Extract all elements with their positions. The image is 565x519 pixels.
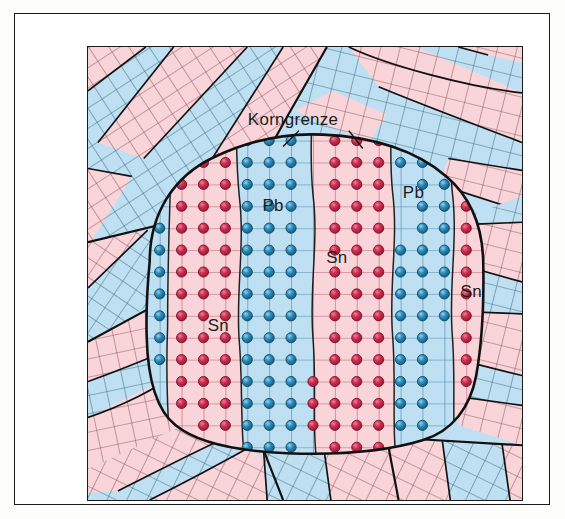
atom-sn — [374, 289, 384, 299]
label-sn-left: Sn — [208, 316, 229, 335]
label-sn-center: Sn — [326, 248, 347, 267]
microstructure-illustration: Korngrenze Pb Pb Sn Sn Sn — [88, 47, 522, 500]
figure-root: Korngrenze Pb Pb Sn Sn Sn — [0, 0, 565, 519]
atom-pb — [439, 223, 449, 233]
atom-sn — [198, 376, 208, 386]
atom-pb — [286, 355, 296, 365]
atom-sn — [352, 311, 362, 321]
atom-pb — [417, 355, 427, 365]
atom-sn — [176, 376, 186, 386]
atom-pb — [155, 289, 165, 299]
atom-pb — [417, 267, 427, 277]
atom-pb — [264, 289, 274, 299]
atom-sn — [461, 267, 471, 277]
atom-sn — [220, 179, 230, 189]
atom-pb — [417, 289, 427, 299]
atom-pb — [242, 289, 252, 299]
atom-pb — [264, 267, 274, 277]
atom-pb — [264, 157, 274, 167]
grain-bottom-right — [387, 437, 522, 500]
atom-pb — [242, 333, 252, 343]
atom-sn — [330, 333, 340, 343]
atom-pb — [286, 245, 296, 255]
atom-sn — [176, 223, 186, 233]
atom-pb — [439, 289, 449, 299]
atom-pb — [242, 157, 252, 167]
atom-pb — [286, 223, 296, 233]
atom-sn — [374, 333, 384, 343]
page-border: Korngrenze Pb Pb Sn Sn Sn — [14, 13, 550, 505]
atom-sn — [374, 245, 384, 255]
atom-sn — [352, 289, 362, 299]
atom-sn — [176, 245, 186, 255]
label-pb-left: Pb — [263, 196, 284, 215]
atom-pb — [242, 398, 252, 408]
atom-pb — [395, 420, 405, 430]
atom-pb — [242, 179, 252, 189]
atom-pb — [155, 311, 165, 321]
atom-pb — [395, 355, 405, 365]
atom-sn — [330, 136, 340, 146]
atom-pb — [417, 333, 427, 343]
atom-pb — [395, 289, 405, 299]
atom-sn — [176, 201, 186, 211]
atom-pb — [395, 398, 405, 408]
atom-pb — [439, 201, 449, 211]
atom-pb — [242, 376, 252, 386]
atom-pb — [395, 376, 405, 386]
atom-pb — [242, 267, 252, 277]
atom-pb — [286, 179, 296, 189]
atom-sn — [330, 267, 340, 277]
atom-pb — [264, 376, 274, 386]
atom-pb — [242, 201, 252, 211]
atom-sn — [176, 267, 186, 277]
atom-sn — [461, 311, 471, 321]
atom-pb — [439, 245, 449, 255]
atom-pb — [395, 311, 405, 321]
atom-pb — [155, 267, 165, 277]
atom-pb — [395, 157, 405, 167]
atom-sn — [220, 289, 230, 299]
atom-sn — [374, 157, 384, 167]
atom-sn — [198, 267, 208, 277]
atom-sn — [198, 289, 208, 299]
atom-pb — [286, 376, 296, 386]
atom-pb — [242, 245, 252, 255]
atom-sn — [330, 376, 340, 386]
atom-pb — [286, 201, 296, 211]
atom-sn — [374, 179, 384, 189]
atom-sn — [461, 223, 471, 233]
atom-sn — [330, 420, 340, 430]
atom-pb — [417, 245, 427, 255]
atom-sn — [198, 179, 208, 189]
atom-sn — [176, 333, 186, 343]
atom-sn — [374, 355, 384, 365]
atom-sn — [308, 398, 318, 408]
atom-pb — [286, 442, 296, 452]
atom-sn — [374, 420, 384, 430]
atom-pb — [439, 267, 449, 277]
atom-pb — [286, 136, 296, 146]
atom-sn — [352, 267, 362, 277]
atom-sn — [308, 420, 318, 430]
atom-pb — [264, 223, 274, 233]
atom-pb — [264, 420, 274, 430]
atom-sn — [176, 398, 186, 408]
label-korngrenze: Korngrenze — [248, 110, 338, 129]
atom-pb — [286, 289, 296, 299]
atom-pb — [242, 311, 252, 321]
atom-sn — [176, 289, 186, 299]
atom-sn — [198, 355, 208, 365]
atom-sn — [220, 201, 230, 211]
atom-sn — [330, 201, 340, 211]
atom-sn — [461, 333, 471, 343]
atom-sn — [220, 420, 230, 430]
atom-sn — [374, 376, 384, 386]
atom-sn — [461, 245, 471, 255]
atom-pb — [286, 398, 296, 408]
atom-sn — [352, 179, 362, 189]
atom-sn — [220, 157, 230, 167]
atom-sn — [220, 223, 230, 233]
atom-pb — [286, 333, 296, 343]
atom-sn — [352, 420, 362, 430]
